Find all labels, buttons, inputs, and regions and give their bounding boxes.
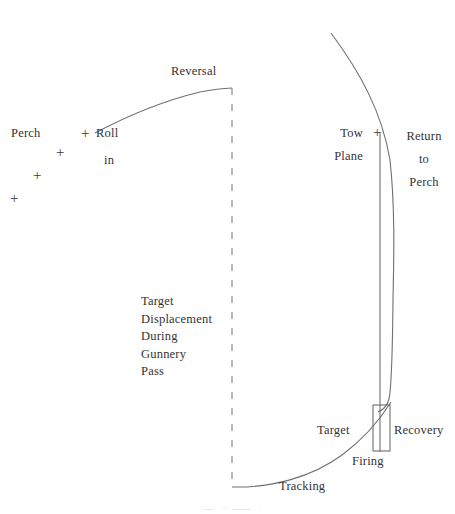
- tow-plane-label-line1: Tow: [300, 125, 363, 142]
- reversal-label: Reversal: [171, 63, 216, 80]
- tracking-label: Tracking: [279, 478, 325, 495]
- tow-plane-mark: +: [373, 125, 381, 140]
- perch-mark-3: +: [56, 145, 64, 160]
- firing-label: Firing: [352, 453, 384, 470]
- diagram-vector-layer: [0, 0, 455, 514]
- perch-mark-2: +: [33, 168, 41, 183]
- perch-mark-roll-in: +: [81, 126, 89, 141]
- return-to-perch-curve: [331, 33, 394, 412]
- tow-plane-label-line2: Plane: [300, 148, 363, 165]
- target-label: Target: [317, 422, 350, 439]
- tracking-curve: [232, 402, 391, 487]
- diagram-canvas: + + + + + Perch Roll in Reversal Tow Pla…: [0, 0, 455, 514]
- figure-caption-fragment: ·— ·· —— ·: [200, 503, 262, 513]
- roll-label: Roll: [96, 125, 118, 142]
- perch-mark-1: +: [10, 191, 18, 206]
- recovery-label: Recovery: [394, 422, 444, 439]
- return-to-perch-label: Return to Perch: [396, 125, 452, 194]
- perch-label: Perch: [11, 125, 40, 142]
- roll-in-label: in: [104, 152, 114, 169]
- firing-box: [373, 405, 390, 451]
- target-displacement-label: Target Displacement During Gunnery Pass: [141, 293, 212, 381]
